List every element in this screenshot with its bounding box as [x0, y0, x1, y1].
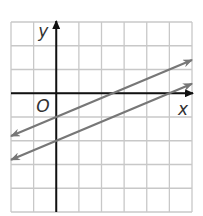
- x-axis-label: x: [177, 99, 189, 119]
- y-axis-label: y: [37, 21, 49, 41]
- coordinate-plane: y x O: [0, 0, 203, 216]
- origin-label: O: [36, 96, 49, 116]
- grid: [11, 22, 192, 212]
